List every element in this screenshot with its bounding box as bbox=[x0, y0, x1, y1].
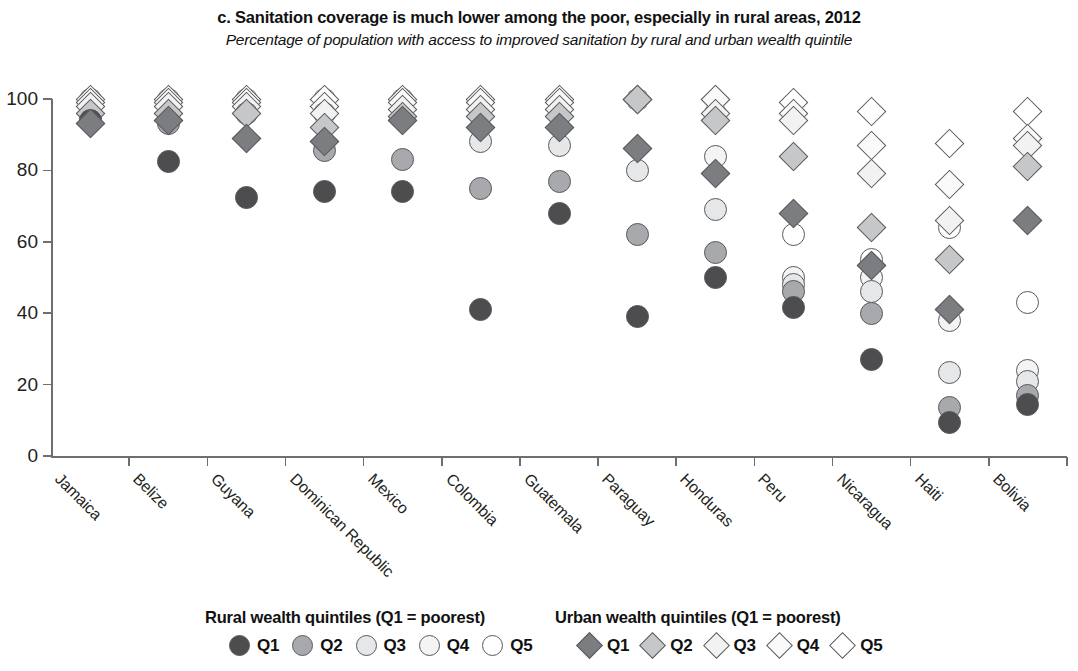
data-point bbox=[779, 141, 809, 171]
y-axis-tick-label: 100 bbox=[0, 89, 38, 108]
legend-heading-urban: Urban wealth quintiles (Q1 = poorest) bbox=[555, 608, 895, 627]
y-axis-tick bbox=[43, 241, 52, 243]
data-point bbox=[938, 361, 961, 384]
x-axis-tick bbox=[285, 457, 287, 466]
legend-heading-rural: Rural wealth quintiles (Q1 = poorest) bbox=[205, 608, 545, 627]
data-point bbox=[860, 280, 883, 303]
data-point bbox=[857, 97, 887, 127]
data-point bbox=[935, 170, 965, 200]
circle-marker-icon bbox=[356, 635, 377, 656]
legend-items-urban: Q1Q2Q3Q4Q5 bbox=[555, 635, 895, 656]
x-axis-label-belize: Belize bbox=[129, 470, 172, 513]
x-axis-line bbox=[51, 456, 1067, 458]
x-axis-label-haiti: Haiti bbox=[911, 470, 946, 505]
diamond-marker-icon bbox=[703, 632, 730, 659]
data-point bbox=[157, 150, 180, 173]
legend-item-rural-q1[interactable]: Q1 bbox=[229, 635, 279, 656]
data-point bbox=[860, 348, 883, 371]
x-axis-label-jamaica: Jamaica bbox=[51, 470, 105, 524]
chart-legend: Rural wealth quintiles (Q1 = poorest) Q1… bbox=[0, 608, 1078, 671]
data-point bbox=[313, 180, 336, 203]
data-point bbox=[935, 129, 965, 159]
legend-label: Q5 bbox=[510, 636, 532, 656]
data-point bbox=[779, 198, 809, 228]
legend-item-rural-q5[interactable]: Q5 bbox=[482, 635, 532, 656]
legend-group-urban: Urban wealth quintiles (Q1 = poorest) Q1… bbox=[555, 608, 895, 656]
data-point bbox=[232, 123, 262, 153]
legend-label: Q1 bbox=[257, 636, 279, 656]
legend-label: Q4 bbox=[447, 636, 469, 656]
legend-item-rural-q2[interactable]: Q2 bbox=[292, 635, 342, 656]
diamond-marker-icon bbox=[639, 632, 666, 659]
diamond-marker-icon bbox=[576, 632, 603, 659]
legend-group-rural: Rural wealth quintiles (Q1 = poorest) Q1… bbox=[205, 608, 545, 656]
x-axis-tick bbox=[675, 457, 677, 466]
x-axis-label-bolivia: Bolivia bbox=[989, 470, 1034, 515]
circle-marker-icon bbox=[419, 635, 440, 656]
legend-label: Q3 bbox=[734, 636, 756, 656]
data-point bbox=[935, 245, 965, 275]
legend-label: Q5 bbox=[860, 636, 882, 656]
x-axis-label-colombia: Colombia bbox=[442, 470, 501, 529]
y-axis-tick bbox=[43, 455, 52, 457]
x-axis-tick bbox=[754, 457, 756, 466]
legend-item-rural-q4[interactable]: Q4 bbox=[419, 635, 469, 656]
data-point bbox=[469, 177, 492, 200]
x-axis-label-paraguay: Paraguay bbox=[598, 470, 658, 530]
x-axis-tick bbox=[207, 457, 209, 466]
legend-item-urban-q1[interactable]: Q1 bbox=[579, 635, 629, 656]
data-point bbox=[1013, 97, 1043, 127]
data-point bbox=[391, 180, 414, 203]
data-point bbox=[626, 223, 649, 246]
data-point bbox=[938, 411, 961, 434]
circle-marker-icon bbox=[229, 635, 250, 656]
legend-item-urban-q5[interactable]: Q5 bbox=[832, 635, 882, 656]
y-axis-tick bbox=[43, 384, 52, 386]
data-point bbox=[235, 186, 258, 209]
x-axis-label-honduras: Honduras bbox=[677, 470, 738, 531]
x-axis-tick bbox=[597, 457, 599, 466]
y-axis-tick-label: 20 bbox=[0, 375, 38, 394]
data-point bbox=[857, 213, 887, 243]
y-axis-tick-label: 80 bbox=[0, 160, 38, 179]
data-point bbox=[857, 131, 887, 161]
legend-label: Q4 bbox=[797, 636, 819, 656]
x-axis-tick bbox=[988, 457, 990, 466]
y-axis-line bbox=[51, 99, 53, 457]
y-axis-tick bbox=[43, 98, 52, 100]
x-axis-tick bbox=[128, 457, 130, 466]
data-point bbox=[391, 148, 414, 171]
legend-item-urban-q3[interactable]: Q3 bbox=[706, 635, 756, 656]
x-axis-tick bbox=[519, 457, 521, 466]
data-point bbox=[704, 266, 727, 289]
data-point bbox=[704, 198, 727, 221]
x-axis-label-mexico: Mexico bbox=[364, 470, 412, 518]
data-point bbox=[548, 202, 571, 225]
data-point bbox=[857, 159, 887, 189]
data-point bbox=[860, 302, 883, 325]
legend-item-rural-q3[interactable]: Q3 bbox=[356, 635, 406, 656]
y-axis-tick bbox=[43, 170, 52, 172]
x-axis-tick bbox=[832, 457, 834, 466]
y-axis-tick-label: 60 bbox=[0, 232, 38, 251]
legend-item-urban-q2[interactable]: Q2 bbox=[642, 635, 692, 656]
x-axis-label-peru: Peru bbox=[755, 470, 791, 506]
data-point bbox=[622, 134, 652, 164]
legend-item-urban-q4[interactable]: Q4 bbox=[769, 635, 819, 656]
x-axis-label-guyana: Guyana bbox=[208, 470, 260, 522]
data-point bbox=[469, 298, 492, 321]
x-axis-tick bbox=[910, 457, 912, 466]
diamond-marker-icon bbox=[829, 632, 856, 659]
x-axis-tick bbox=[1066, 457, 1068, 466]
legend-label: Q1 bbox=[607, 636, 629, 656]
x-axis-tick bbox=[363, 457, 365, 466]
y-axis-tick-label: 40 bbox=[0, 303, 38, 322]
data-point bbox=[1016, 291, 1039, 314]
scatter-plot: 020406080100 JamaicaBelizeGuyanaDominica… bbox=[0, 0, 1078, 671]
y-axis-tick bbox=[43, 312, 52, 314]
legend-items-rural: Q1Q2Q3Q4Q5 bbox=[205, 635, 545, 656]
legend-label: Q2 bbox=[670, 636, 692, 656]
data-point bbox=[704, 241, 727, 264]
legend-label: Q2 bbox=[320, 636, 342, 656]
x-axis-label-nicaragua: Nicaragua bbox=[833, 470, 896, 533]
